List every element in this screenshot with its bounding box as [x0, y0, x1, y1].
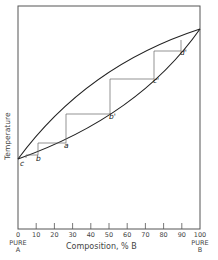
tie-lines: [26, 40, 181, 158]
solidus-curve: [18, 29, 200, 159]
x-tick-label: 30: [68, 231, 76, 239]
x-axis-ticks: [36, 223, 182, 229]
pure-a-line2: A: [9, 247, 26, 254]
point-label-b: b: [36, 154, 41, 163]
point-label-c: c: [20, 159, 24, 168]
y-axis-label: Temperature: [3, 112, 12, 160]
x-axis-label: Composition, % B: [66, 242, 137, 251]
point-label-a: a: [64, 141, 69, 150]
liquidus-curve: [18, 29, 200, 159]
x-tick-label: 80: [159, 231, 167, 239]
x-tick-label: 50: [105, 231, 113, 239]
x-tick-label: 10: [32, 231, 40, 239]
point-label-c-prime: c': [153, 76, 159, 85]
point-label-b-prime: b': [109, 112, 116, 121]
x-tick-label: 0: [16, 231, 20, 239]
x-tick-label: 40: [87, 231, 95, 239]
pure-b-line2: B: [191, 247, 208, 254]
phase-diagram: [0, 0, 218, 260]
x-tick-label: 90: [178, 231, 186, 239]
x-tick-label: 70: [141, 231, 149, 239]
point-label-d-prime: d': [180, 48, 187, 57]
x-tick-label: 60: [123, 231, 131, 239]
pure-a-label: PURE A: [9, 240, 26, 255]
x-tick-label: 20: [50, 231, 58, 239]
x-tick-label: 100: [194, 231, 206, 239]
pure-b-label: PURE B: [191, 240, 208, 255]
